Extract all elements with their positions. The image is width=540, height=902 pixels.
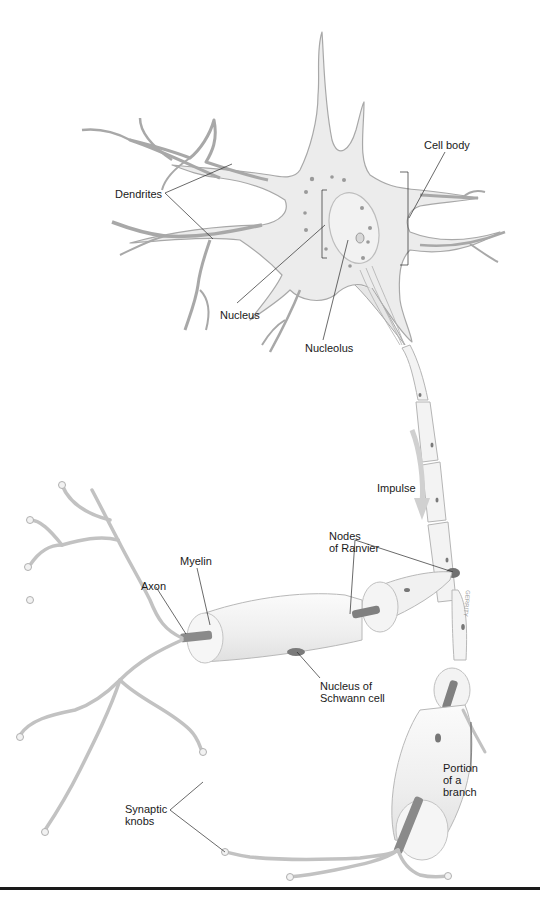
label-nucleus: Nucleus [220, 309, 260, 321]
bottom-rule [0, 887, 540, 890]
label-axon: Axon [141, 580, 166, 592]
label-nodes-of-ranvier: Nodes of Ranvier [329, 530, 379, 554]
label-cell-body: Cell body [424, 139, 470, 151]
artist-signature: GERRITY [463, 590, 471, 617]
label-impulse: Impulse [377, 482, 416, 494]
label-dendrites: Dendrites [115, 188, 162, 200]
left-axon-terminals [20, 485, 203, 830]
label-nucleus-of-schwann-cell: Nucleus of Schwann cell [320, 680, 385, 704]
label-nucleolus: Nucleolus [305, 342, 353, 354]
nucleolus-shape [356, 233, 364, 243]
label-myelin: Myelin [180, 555, 212, 567]
middle-myelin [180, 572, 452, 663]
label-portion-of-a-branch: Portion of a branch [443, 762, 478, 798]
neuron-diagram: GERRITY Dendrites Cell body Nucleus Nucl… [0, 0, 540, 902]
label-synaptic-knobs: Synaptic knobs [125, 803, 167, 827]
left-synaptic-knobs [17, 482, 207, 836]
upper-axon [402, 345, 456, 602]
